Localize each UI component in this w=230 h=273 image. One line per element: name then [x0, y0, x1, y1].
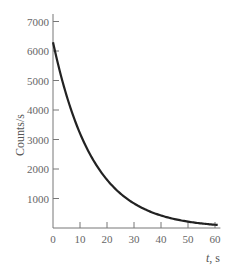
x-tick-label: 20	[102, 233, 114, 245]
y-tick-label: 2000	[27, 163, 50, 175]
x-axis-ticks: 0102030405060	[50, 222, 221, 245]
x-tick-label: 30	[129, 233, 141, 245]
y-tick-label: 7000	[27, 16, 50, 28]
axes	[53, 14, 220, 228]
y-axis-label: Counts/s	[13, 114, 27, 156]
decay-chart: 1000200030004000500060007000 01020304050…	[0, 0, 230, 273]
y-tick-label: 5000	[27, 75, 50, 87]
x-tick-label: 50	[183, 233, 195, 245]
y-tick-label: 4000	[27, 104, 50, 116]
x-tick-label: 40	[156, 233, 168, 245]
x-tick-label: 60	[210, 233, 222, 245]
x-tick-label: 10	[75, 233, 87, 245]
x-tick-label: 0	[50, 233, 56, 245]
x-axis-label: t, s	[206, 251, 220, 265]
y-tick-label: 3000	[27, 134, 50, 146]
decay-curve	[53, 42, 218, 225]
y-tick-label: 1000	[27, 193, 50, 205]
y-tick-label: 6000	[27, 45, 50, 57]
